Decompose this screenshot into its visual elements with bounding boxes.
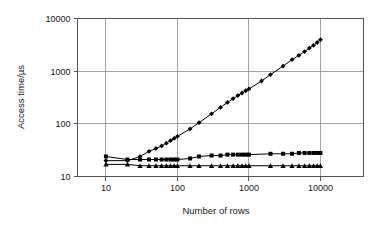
x-tick-label: 1000 — [239, 183, 259, 193]
data-point-marker — [175, 158, 179, 162]
x-tick-label: 100 — [170, 183, 185, 193]
data-point-marker — [240, 153, 244, 157]
x-tick-label: 10000 — [308, 183, 333, 193]
y-axis-title: Access time/µs — [15, 65, 26, 129]
y-tick-label: 100 — [55, 119, 70, 129]
data-point-marker — [225, 153, 229, 157]
data-point-marker — [303, 151, 307, 155]
data-point-marker — [290, 152, 294, 156]
data-point-marker — [160, 158, 164, 162]
chart-figure: 1010010001000010100100010000 Number of r… — [0, 0, 384, 226]
data-point-marker — [236, 153, 240, 157]
data-point-marker — [312, 151, 316, 155]
data-point-marker — [307, 151, 311, 155]
data-point-marker — [154, 158, 158, 162]
y-tick-label: 10 — [60, 172, 70, 182]
data-point-marker — [104, 154, 108, 158]
data-point-marker — [188, 156, 192, 160]
data-point-marker — [219, 154, 223, 158]
data-point-marker — [197, 154, 201, 158]
x-axis-title: Number of rows — [182, 205, 249, 216]
y-tick-label: 10000 — [45, 14, 70, 24]
data-point-marker — [164, 158, 168, 162]
data-point-marker — [268, 152, 272, 156]
data-point-marker — [247, 153, 251, 157]
data-point-marker — [297, 151, 301, 155]
x-tick-label: 10 — [101, 183, 111, 193]
data-point-marker — [281, 152, 285, 156]
data-point-marker — [318, 151, 322, 155]
data-point-marker — [125, 158, 129, 162]
data-point-marker — [147, 158, 151, 162]
data-point-marker — [169, 158, 173, 162]
data-point-marker — [231, 153, 235, 157]
chart-plot: 1010010001000010100100010000 Number of r… — [0, 0, 384, 226]
y-tick-label: 1000 — [50, 67, 70, 77]
data-point-marker — [210, 154, 214, 158]
data-point-marker — [138, 158, 142, 162]
